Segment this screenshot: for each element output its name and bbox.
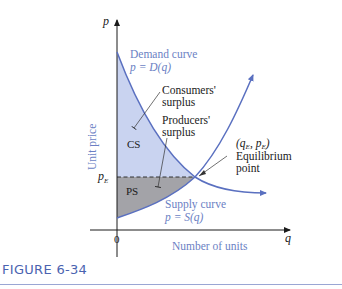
origin-label: 0: [114, 233, 120, 245]
producers-surplus-annotation-2: surplus: [162, 126, 196, 139]
y-axis-variable: p: [102, 14, 109, 28]
ps-region-label: PS: [126, 185, 138, 197]
equilibrium-coordinates: (qE, pE): [236, 137, 270, 151]
x-axis-variable: q: [285, 231, 291, 245]
caption-divider: [0, 284, 342, 285]
equilibrium-price-label: pE: [97, 169, 109, 185]
supply-curve-label: Supply curve: [165, 198, 226, 211]
cs-region-label: CS: [127, 138, 140, 150]
y-axis-title: Unit price: [86, 124, 99, 170]
equilibrium-point-label-2: point: [236, 162, 260, 175]
consumer-producer-surplus-diagram: p q 0 pE Unit price Number of units Dema…: [0, 0, 342, 289]
x-axis-title: Number of units: [172, 240, 248, 252]
consumers-surplus-annotation: Consumers': [162, 84, 216, 96]
supply-curve-equation: p = S(q): [164, 211, 204, 224]
demand-curve-label: Demand curve: [130, 48, 197, 60]
figure-caption: FIGURE 6-34: [2, 262, 87, 277]
demand-curve-equation: p = D(q): [129, 61, 171, 74]
producers-surplus-annotation: Producers': [162, 114, 210, 126]
consumers-surplus-annotation-2: surplus: [162, 96, 196, 109]
